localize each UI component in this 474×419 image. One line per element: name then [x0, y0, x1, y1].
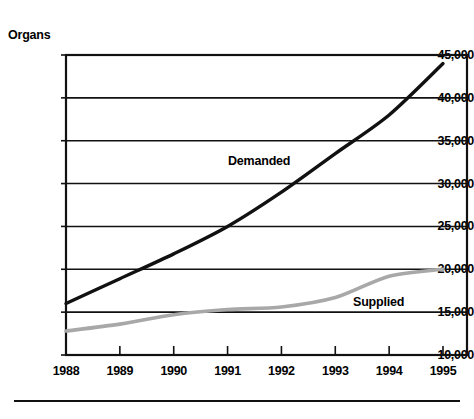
series-label-supplied: Supplied	[353, 295, 404, 309]
plot-area	[0, 0, 474, 419]
gridlines	[66, 98, 467, 312]
organ-supply-demand-chart: Organs 45,00040,00035,00030,00025,00020,…	[0, 0, 474, 419]
series-lines	[66, 64, 443, 331]
bottom-divider	[14, 400, 460, 402]
series-label-demanded: Demanded	[228, 154, 290, 168]
